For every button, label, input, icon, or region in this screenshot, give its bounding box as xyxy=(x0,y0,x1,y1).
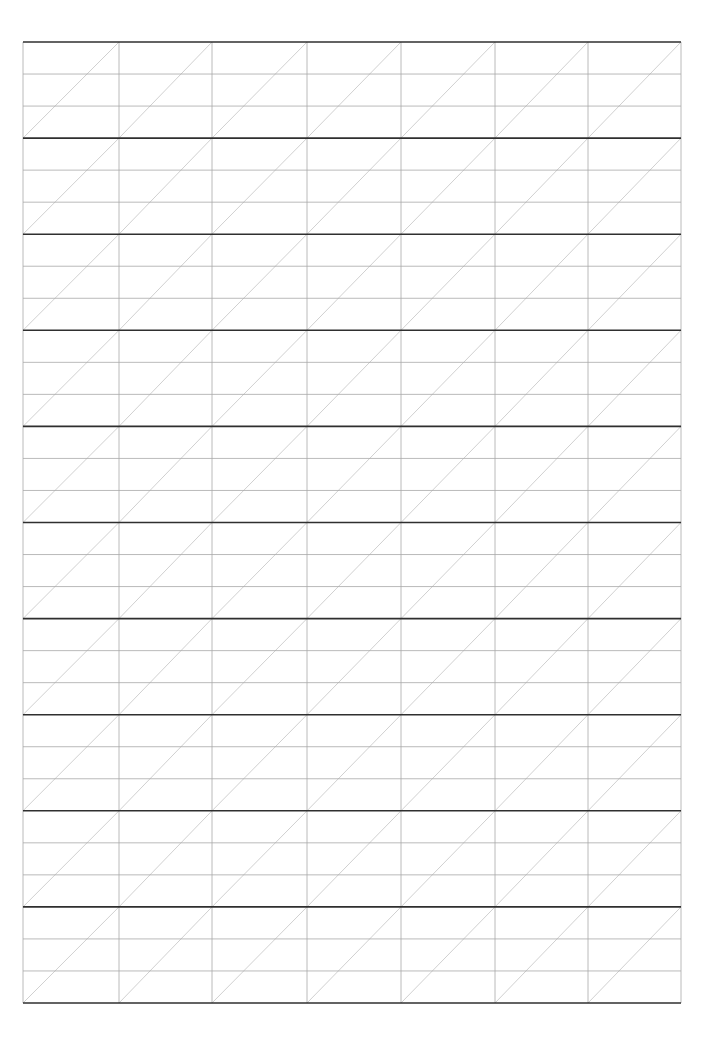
cell-diagonal-line xyxy=(588,234,681,330)
cell-diagonal-line xyxy=(119,42,212,138)
cell-diagonal-line xyxy=(119,811,212,907)
cell-diagonal-line xyxy=(588,523,681,619)
cell-diagonal-line xyxy=(401,42,495,138)
cell-diagonal-line xyxy=(495,426,588,522)
cell-diagonal-line xyxy=(307,619,401,715)
cell-diagonal-line xyxy=(588,619,681,715)
cell-diagonal-line xyxy=(23,330,119,426)
cell-diagonal-line xyxy=(212,426,307,522)
cell-diagonal-line xyxy=(212,811,307,907)
cell-diagonal-line xyxy=(401,426,495,522)
cell-diagonal-line xyxy=(307,715,401,811)
cell-diagonal-line xyxy=(495,907,588,1003)
cell-diagonal-line xyxy=(307,234,401,330)
cell-diagonal-line xyxy=(212,619,307,715)
cell-diagonal-line xyxy=(212,42,307,138)
cell-diagonal-line xyxy=(23,234,119,330)
cell-diagonal-line xyxy=(588,907,681,1003)
cell-diagonal-line xyxy=(307,42,401,138)
cell-diagonal-line xyxy=(588,330,681,426)
cell-diagonal-line xyxy=(401,330,495,426)
cell-diagonal-line xyxy=(495,619,588,715)
cell-diagonal-line xyxy=(23,523,119,619)
cell-diagonal-line xyxy=(495,330,588,426)
cell-diagonal-line xyxy=(588,138,681,234)
cell-diagonal-line xyxy=(23,619,119,715)
cell-diagonal-line xyxy=(212,138,307,234)
cell-diagonal-line xyxy=(23,138,119,234)
cell-diagonal-line xyxy=(23,42,119,138)
cell-diagonal-line xyxy=(307,138,401,234)
band-separator-lines xyxy=(23,42,681,1003)
cell-diagonal-line xyxy=(212,907,307,1003)
cell-diagonal-line xyxy=(495,138,588,234)
cell-diagonal-line xyxy=(401,907,495,1003)
cell-diagonal-line xyxy=(588,42,681,138)
cell-diagonal-line xyxy=(307,907,401,1003)
cell-diagonal-line xyxy=(212,715,307,811)
cell-diagonal-line xyxy=(401,234,495,330)
cell-diagonal-line xyxy=(23,426,119,522)
cell-diagonal-line xyxy=(119,330,212,426)
cell-diagonal-line xyxy=(495,234,588,330)
cell-diagonal-line xyxy=(119,234,212,330)
cell-diagonal-line xyxy=(23,715,119,811)
cell-diagonal-line xyxy=(212,330,307,426)
cell-diagonal-line xyxy=(23,907,119,1003)
cell-diagonal-line xyxy=(495,811,588,907)
cell-diagonal-line xyxy=(119,907,212,1003)
cell-diagonal-line xyxy=(588,426,681,522)
cell-diagonal-line xyxy=(401,811,495,907)
cell-diagonal-line xyxy=(119,426,212,522)
cell-diagonal-line xyxy=(401,523,495,619)
cell-diagonal-line xyxy=(495,42,588,138)
cell-diagonal-line xyxy=(495,523,588,619)
cell-diagonal-line xyxy=(119,138,212,234)
cell-diagonal-line xyxy=(401,715,495,811)
cell-diagonal-line xyxy=(119,523,212,619)
cell-diagonal-line xyxy=(212,523,307,619)
cell-diagonal-line xyxy=(588,715,681,811)
cell-diagonal-line xyxy=(307,523,401,619)
cell-diagonal-line xyxy=(307,426,401,522)
cell-diagonal-line xyxy=(119,715,212,811)
cell-diagonal-line xyxy=(401,138,495,234)
cell-diagonal-line xyxy=(119,619,212,715)
cell-diagonal-line xyxy=(588,811,681,907)
cell-diagonal-line xyxy=(212,234,307,330)
cell-diagonal-line xyxy=(495,715,588,811)
cell-diagonal-line xyxy=(307,330,401,426)
cell-diagonal-line xyxy=(307,811,401,907)
cell-diagonal-line xyxy=(401,619,495,715)
practice-grid-sheet xyxy=(0,0,715,1046)
cell-diagonal-line xyxy=(23,811,119,907)
